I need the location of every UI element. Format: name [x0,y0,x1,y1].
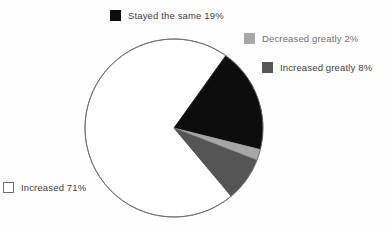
legend-swatch-increased [3,182,14,193]
legend-label-stayed-the-same: Stayed the same 19% [128,10,224,21]
legend-item-stayed-the-same[interactable]: Stayed the same 19% [110,10,224,21]
legend-label-decreased-greatly: Decreased greatly 2% [262,33,358,44]
legend-item-decreased-greatly[interactable]: Decreased greatly 2% [244,33,358,44]
legend-swatch-stayed-the-same [110,10,121,21]
legend-item-increased[interactable]: Increased 71% [3,182,86,193]
chart-canvas: Stayed the same 19% Decreased greatly 2%… [0,0,387,233]
legend-label-increased: Increased 71% [21,182,86,193]
pie-slice-group [85,39,263,217]
legend-label-increased-greatly: Increased greatly 8% [280,62,372,73]
legend-swatch-increased-greatly [262,62,273,73]
legend-item-increased-greatly[interactable]: Increased greatly 8% [262,62,372,73]
legend-swatch-decreased-greatly [244,33,255,44]
